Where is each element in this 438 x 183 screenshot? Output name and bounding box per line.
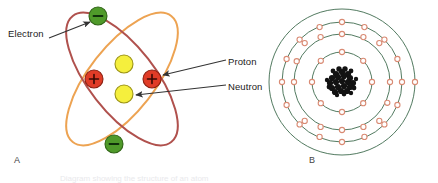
shell-electron [387, 79, 392, 84]
shell-electron [309, 79, 314, 84]
shell-electron [294, 59, 299, 64]
shell-electron [412, 79, 417, 84]
panel-a-arrows [49, 22, 226, 95]
shell-electron [339, 31, 344, 36]
shell-electron [382, 37, 387, 42]
shell-electron [339, 109, 344, 114]
shell-electron [297, 122, 302, 127]
shell-electron [302, 41, 307, 46]
shell-electron [382, 122, 387, 127]
shell-electron [291, 79, 296, 84]
arrow-proton-line [163, 60, 226, 75]
shell-electron [318, 124, 323, 129]
shell-electron [297, 37, 302, 42]
shell-electron [339, 49, 344, 54]
label-neutron: Neutron [228, 81, 263, 92]
shell-electron [361, 124, 366, 129]
shell-electron [361, 58, 366, 63]
nucleus-cluster [325, 66, 358, 97]
panel-letter-b: B [309, 155, 315, 165]
shell-electron [395, 56, 400, 61]
shell-electron [279, 79, 284, 84]
shell-electron [399, 79, 404, 84]
shell-electron [317, 134, 322, 139]
shell-electron [339, 19, 344, 24]
shell-electron [385, 100, 390, 105]
shell-electron [369, 79, 374, 84]
shell-electron [395, 102, 400, 107]
figure-caption: Diagram showing the structure of an atom [60, 176, 209, 183]
shell-electron [284, 102, 289, 107]
neutron-lower-circle [115, 85, 133, 103]
panel-a-orbits [47, 0, 198, 162]
label-electron: Electron [8, 28, 44, 39]
shell-electron [284, 56, 289, 61]
panel-b-group [269, 9, 418, 155]
panel-a-neutrons [115, 55, 133, 103]
shell-electron [377, 118, 382, 123]
shell-electron [339, 127, 344, 132]
atom-diagram-svg [0, 0, 438, 183]
shell-electron [318, 58, 323, 63]
shell-electron [362, 25, 367, 30]
shell-electron [361, 101, 366, 106]
shell-electron [318, 35, 323, 40]
caption-strip: Diagram showing the structure of an atom [0, 176, 438, 183]
panel-a-group [47, 0, 226, 162]
label-proton: Proton [228, 56, 257, 67]
shell-electron [361, 35, 366, 40]
shell-electron [318, 101, 323, 106]
neutron-upper-circle [115, 55, 133, 73]
shell-electron [339, 139, 344, 144]
shell-electron [317, 25, 322, 30]
atom-figure: Electron Proton Neutron A B Diagram show… [0, 0, 438, 183]
panel-letter-a: A [14, 155, 20, 165]
shell-electron [362, 134, 367, 139]
shell-electron [377, 41, 382, 46]
shell-electron [302, 118, 307, 123]
arrow-electron-line [49, 22, 90, 38]
